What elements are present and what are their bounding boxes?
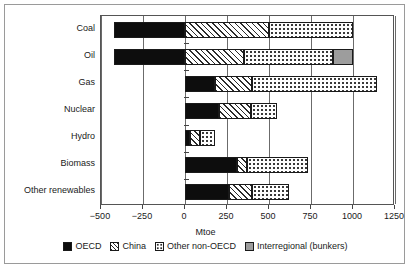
x-tick-label: 1250 — [384, 211, 404, 221]
bar-row — [101, 76, 393, 92]
bar-row — [101, 49, 393, 65]
bar-segment — [237, 157, 247, 173]
bar-segment — [252, 184, 289, 200]
bar-segment — [252, 76, 376, 92]
bar-row — [101, 22, 393, 38]
x-tick-label: 0 — [181, 211, 186, 221]
x-tick-label: 250 — [218, 211, 233, 221]
category-label-oil: Oil — [84, 51, 95, 60]
legend-label: OECD — [75, 241, 101, 251]
legend-label: China — [122, 241, 146, 251]
bar-segment — [215, 76, 252, 92]
category-tick — [184, 70, 189, 71]
bar-segment — [219, 103, 251, 119]
x-tick — [310, 205, 311, 209]
x-tick-label: 750 — [302, 211, 317, 221]
x-tick-label: 500 — [260, 211, 275, 221]
x-tick — [268, 205, 269, 209]
legend-swatch-china — [110, 242, 119, 251]
legend-item: Other non-OECD — [155, 241, 236, 251]
legend-label: Interregional (bunkers) — [257, 241, 348, 251]
legend-item: China — [110, 241, 146, 251]
legend-swatch-other — [155, 242, 164, 251]
x-tick-label: −500 — [90, 211, 110, 221]
bar-row — [101, 184, 393, 200]
x-tick-label: 1000 — [342, 211, 362, 221]
category-tick — [184, 179, 189, 180]
bar-segment — [185, 184, 229, 200]
category-axis: CoalOilGasNuclearHydroBiomassOther renew… — [5, 15, 95, 205]
bar-segment — [190, 130, 200, 146]
x-tick — [226, 205, 227, 209]
legend-item: OECD — [63, 241, 101, 251]
category-label-biomass: Biomass — [60, 159, 95, 168]
category-label-coal: Coal — [76, 24, 95, 33]
x-tick-label: −250 — [132, 211, 152, 221]
x-tick — [184, 205, 185, 209]
bar-row — [101, 157, 393, 173]
x-tick — [352, 205, 353, 209]
bar-row — [101, 130, 393, 146]
legend-item: Interregional (bunkers) — [245, 241, 348, 251]
category-label-gas: Gas — [78, 78, 95, 87]
chart-legend: OECDChinaOther non-OECDInterregional (bu… — [5, 241, 406, 251]
chart-frame: CoalOilGasNuclearHydroBiomassOther renew… — [4, 4, 405, 264]
bar-segment — [185, 49, 244, 65]
category-label-hydro: Hydro — [71, 132, 95, 141]
bar-segment — [200, 130, 215, 146]
legend-swatch-bunkers — [245, 242, 254, 251]
x-axis-title: Mtoe — [5, 227, 406, 237]
plot-area — [100, 15, 394, 205]
bar-segment — [251, 103, 278, 119]
bar-segment — [269, 22, 353, 38]
category-label-nuclear: Nuclear — [64, 105, 95, 114]
bar-segment — [229, 184, 253, 200]
x-tick — [100, 205, 101, 209]
bar-segment — [185, 157, 237, 173]
category-tick — [184, 97, 189, 98]
x-tick — [142, 205, 143, 209]
gridline — [395, 16, 396, 204]
bar-segment — [185, 22, 269, 38]
x-tick — [394, 205, 395, 209]
legend-swatch-oecd — [63, 242, 72, 251]
legend-label: Other non-OECD — [167, 241, 236, 251]
bar-segment — [114, 22, 185, 38]
bar-segment — [114, 49, 185, 65]
bar-segment — [247, 157, 307, 173]
category-tick — [184, 43, 189, 44]
category-tick — [184, 125, 189, 126]
bar-segment — [244, 49, 333, 65]
bar-segment — [185, 76, 215, 92]
category-label-other-renewables: Other renewables — [24, 186, 95, 195]
category-tick — [184, 152, 189, 153]
bar-row — [101, 103, 393, 119]
bar-segment — [333, 49, 353, 65]
bar-segment — [185, 103, 219, 119]
